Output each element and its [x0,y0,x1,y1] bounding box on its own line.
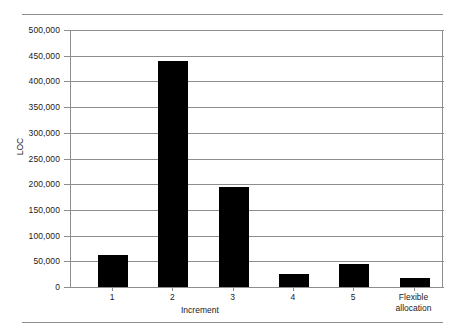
bar [98,255,128,287]
y-axis-tick [64,261,70,262]
x-axis-tick [353,287,354,291]
bar [158,61,188,287]
gridline [71,236,444,237]
bar [219,187,249,287]
gridline [71,287,444,288]
y-axis-tick [64,236,70,237]
y-axis-tick [64,287,70,288]
y-axis-tick-label: 250,000 [4,155,60,164]
y-axis-tick [64,81,70,82]
y-axis-tick-label: 0 [4,283,60,292]
gridline [71,30,444,31]
y-axis-tick-label: 400,000 [4,77,60,86]
y-axis-tick-label: 100,000 [4,232,60,241]
gridline [71,159,444,160]
y-axis-tick-label: 350,000 [4,103,60,112]
x-axis-tick-label-line: Flexible [377,292,451,303]
x-axis-tick-label-line: allocation [377,303,451,314]
y-axis-tick-label: 450,000 [4,52,60,61]
plot-area [70,30,443,287]
y-axis-tick [64,30,70,31]
x-axis-tick [293,287,294,291]
y-axis-tick [64,184,70,185]
bar-chart-figure: LOC 500,000450,000400,000350,000300,0002… [0,0,464,334]
x-axis-tick [414,287,415,291]
x-axis-tick [172,287,173,291]
gridline [71,107,444,108]
y-axis-tick-label: 50,000 [4,257,60,266]
y-axis-tick [64,56,70,57]
gridline [71,56,444,57]
y-axis-tick-label: 300,000 [4,129,60,138]
y-axis-tick [64,133,70,134]
x-axis-tick-label: Flexibleallocation [377,292,451,313]
page-rule-top [22,14,443,15]
y-axis-tick [64,107,70,108]
page-rule-bottom [22,322,443,323]
gridline [71,81,444,82]
y-axis-tick-label: 150,000 [4,206,60,215]
y-axis-tick-label: 200,000 [4,180,60,189]
gridline [71,210,444,211]
y-axis-tick-label: 500,000 [4,26,60,35]
x-axis-tick [112,287,113,291]
y-axis-tick [64,210,70,211]
y-axis-tick [64,159,70,160]
y-axis-title: LOC [16,117,25,177]
x-axis-tick [233,287,234,291]
bar [400,278,430,287]
gridline [71,133,444,134]
x-axis-title: Increment [181,305,219,315]
bar [339,264,369,287]
bar [279,274,309,287]
gridline [71,184,444,185]
